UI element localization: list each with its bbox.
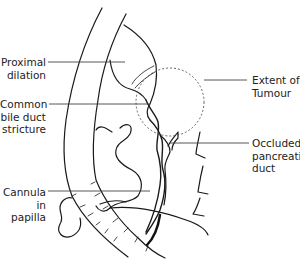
vertebra-outline	[193, 132, 208, 216]
pancreas-head-outline	[96, 125, 141, 211]
proximal-dilation-outline	[124, 25, 157, 120]
label-pancreatic-duct: Occluded pancreatic duct	[252, 137, 300, 175]
duodenal-diverticulum	[59, 198, 81, 237]
label-tumour: Extent of Tumour	[252, 74, 300, 99]
label-proximal-dilation: Proximal dilation	[0, 56, 46, 81]
label-cbd-stricture: Common bile duct stricture	[0, 98, 46, 136]
duodenum-folds	[72, 182, 148, 251]
dilated-duct-left	[110, 60, 146, 100]
label-cannula: Cannula in papilla	[0, 186, 46, 224]
duodenum-outer-wall	[64, 8, 128, 257]
dilated-duct-inner2	[135, 72, 155, 88]
